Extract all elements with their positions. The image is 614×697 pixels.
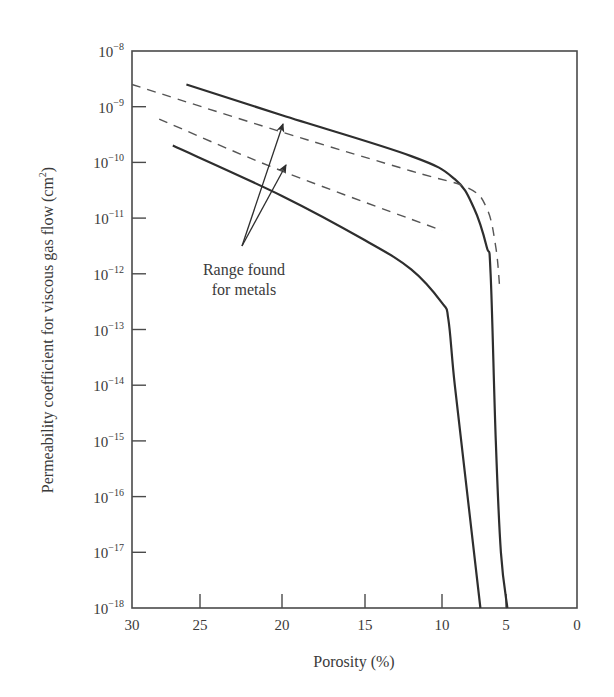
annotation-line-1: Range found <box>203 261 285 279</box>
annotation-arrow-lower <box>242 165 286 246</box>
plot-frame <box>132 51 577 608</box>
y-tick-label: 10−10 <box>93 152 124 171</box>
y-tick-label: 10−16 <box>93 487 124 506</box>
y-tick-label: 10−18 <box>93 598 124 617</box>
series-line-1 <box>173 146 481 608</box>
permeability-chart: 10−810−910−1010−1110−1210−1310−1410−1510… <box>0 0 614 697</box>
y-tick-label: 10−8 <box>98 41 124 60</box>
x-tick-label: 30 <box>125 617 140 633</box>
y-tick-label: 10−15 <box>93 431 124 450</box>
y-axis-title-main: Permeability coefficient for viscous gas… <box>39 177 57 494</box>
annotation-arrow-upper <box>242 124 283 246</box>
y-tick-label: 10−13 <box>93 320 124 339</box>
annotation-line-2: for metals <box>212 281 276 298</box>
x-tick-label: 25 <box>193 617 208 633</box>
y-tick-label: 10−14 <box>93 375 124 394</box>
y-axis-title: Permeability coefficient for viscous gas… <box>37 167 57 493</box>
series-group <box>132 85 507 609</box>
x-tick-label: 5 <box>502 617 510 633</box>
x-tick-label: 0 <box>573 617 581 633</box>
y-tick-label: 10−17 <box>93 542 124 561</box>
y-axis-ticks: 10−810−910−1010−1110−1210−1310−1410−1510… <box>93 41 146 617</box>
x-tick-label: 10 <box>435 617 450 633</box>
series-line-2 <box>132 85 500 287</box>
y-tick-label: 10−11 <box>94 208 124 227</box>
y-axis-title-close: ) <box>39 167 57 172</box>
series-line-3 <box>159 119 442 230</box>
x-axis-title: Porosity (%) <box>313 653 394 671</box>
x-tick-label: 15 <box>358 617 373 633</box>
series-line-0 <box>186 85 507 609</box>
x-axis-ticks: 302520151050 <box>125 594 581 633</box>
y-tick-label: 10−12 <box>93 264 124 283</box>
y-tick-label: 10−9 <box>98 97 124 116</box>
x-tick-label: 20 <box>275 617 290 633</box>
